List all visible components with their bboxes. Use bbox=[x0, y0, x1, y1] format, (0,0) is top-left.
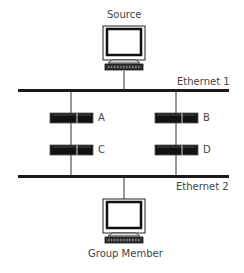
group-member-computer-icon bbox=[103, 199, 145, 243]
router-d-icon bbox=[155, 145, 198, 155]
source-computer-icon bbox=[103, 26, 145, 70]
ethernet-1-label: Ethernet 1 bbox=[177, 76, 230, 87]
router-a-label: A bbox=[98, 112, 105, 123]
ethernet-2-label: Ethernet 2 bbox=[176, 181, 229, 192]
source-label: Source bbox=[107, 9, 141, 20]
network-diagram bbox=[0, 0, 244, 273]
router-d-label: D bbox=[203, 144, 211, 155]
group-member-label: Group Member bbox=[88, 248, 163, 259]
router-b-label: B bbox=[203, 112, 210, 123]
router-c-label: C bbox=[98, 144, 105, 155]
router-b-icon bbox=[155, 113, 198, 123]
router-a-icon bbox=[50, 113, 93, 123]
router-c-icon bbox=[50, 145, 93, 155]
